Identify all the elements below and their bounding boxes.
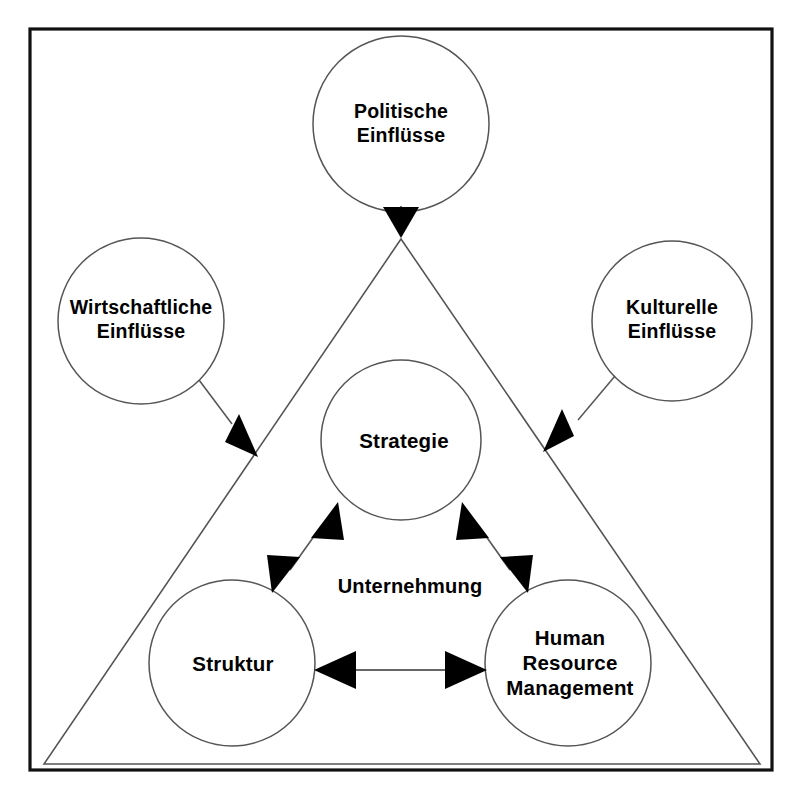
node-human-resource-management-circle[interactable] — [485, 580, 651, 746]
diagram-graphics — [0, 0, 799, 793]
node-wirtschaftliche-einfluesse-circle[interactable] — [58, 238, 224, 404]
node-struktur-circle[interactable] — [149, 580, 315, 746]
diagram-canvas: Politische Einflüsse Wirtschaftliche Ein… — [0, 0, 799, 793]
node-strategie-circle[interactable] — [321, 360, 481, 520]
node-politische-einfluesse-circle[interactable] — [313, 36, 489, 212]
node-kulturelle-einfluesse-circle[interactable] — [592, 241, 752, 401]
